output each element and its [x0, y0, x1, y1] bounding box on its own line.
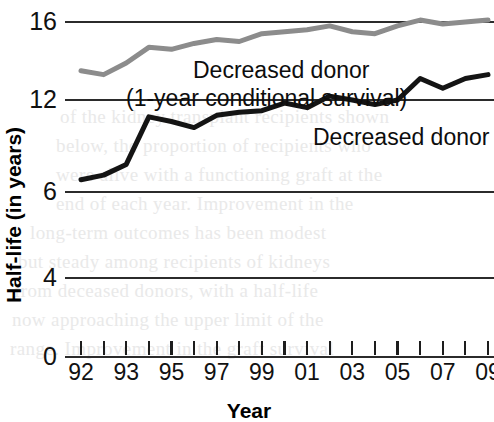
- x-axis-tick-marks: [81, 341, 488, 355]
- y-axis-tick-label: 16: [29, 7, 57, 35]
- y-axis-tick-label: 6: [43, 177, 57, 205]
- x-axis-tick-label: 95: [159, 359, 185, 385]
- x-axis-tick-label: 05: [385, 359, 411, 385]
- series-annotation-gray-line1: Decreased donor: [193, 57, 370, 83]
- x-axis-tick-label: 93: [113, 359, 139, 385]
- y-axis-tick-labels: 1612640: [29, 7, 57, 370]
- series-annotation-gray-line2: (1-year conditional survival): [126, 85, 407, 111]
- x-axis-tick-label: 97: [204, 359, 230, 385]
- series-annotation-black: Decreased donor: [313, 124, 490, 150]
- y-axis-tick-label: 12: [29, 85, 57, 113]
- x-axis-title: Year: [227, 399, 271, 422]
- y-axis-tick-label: 4: [43, 263, 57, 291]
- x-axis-tick-label: 07: [430, 359, 456, 385]
- x-axis-tick-labels: 92939597990103050709: [68, 359, 494, 385]
- x-axis-tick-label: 01: [294, 359, 320, 385]
- x-axis-tick-label: 99: [249, 359, 275, 385]
- x-axis-tick-label: 09: [475, 359, 494, 385]
- x-axis-tick-label: 92: [68, 359, 94, 385]
- chart-container: of the kidney transplant recipients show…: [0, 0, 494, 422]
- x-axis-tick-label: 03: [340, 359, 366, 385]
- y-axis-tick-label: 0: [43, 342, 57, 370]
- y-axis-title: Half-life (in years): [2, 127, 25, 303]
- line-chart-svg: 1612640 92939597990103050709 Half-life (…: [0, 0, 494, 422]
